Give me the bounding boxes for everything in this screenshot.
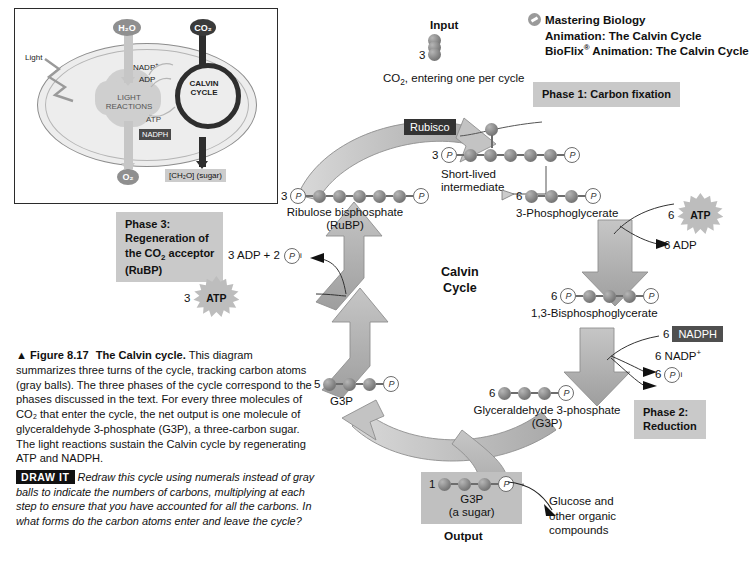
short-lived-intermediate-label: Short-livedintermediate [441,168,504,194]
rubisco-leader-line [458,118,548,142]
mastering-title: Mastering Biology [545,13,646,26]
carbon-ball [545,190,558,203]
molecule-rubp: 3 P P [281,188,429,204]
h2o-oval: H₂O [113,19,141,36]
phosphate-icon: P [560,288,576,304]
atp3-count: 3 [184,292,190,304]
g3p5-label: G3P [330,395,353,408]
calvin-cycle-center-label: Calvin Cycle [441,265,479,296]
carbon-ball [603,290,616,303]
molecule-g3p-6: 6 P [489,385,574,401]
light-zigzag-icon [43,57,113,103]
draw-it-tag: DRAW IT [16,470,75,484]
carbon-ball [458,478,471,491]
nadph-tag-inset: NADPH [139,129,171,140]
carbon-ball [438,478,451,491]
g3p6-count: 6 [489,387,495,399]
input-co2-balls: 3 [419,34,444,62]
phosphate-icon: P [383,376,399,392]
phase-3-box: Phase 3:Regeneration ofthe CO2 acceptor(… [116,212,223,282]
g3p1-label: G3P(a sugar) [429,493,514,519]
carbon-ball [525,190,538,203]
calvin-word: Calvin [441,265,479,279]
phosphate-icon: P [643,288,659,304]
rubp-count: 3 [281,190,287,202]
input-count: 3 [419,49,425,61]
sugar-arrowhead [196,161,208,169]
co2-entering-note: CO2, entering one per cycle [383,72,524,88]
light-label: Light [25,53,42,62]
atp3-arrow [230,252,350,310]
carbon-ball [498,387,511,400]
phosphate-icon: P [290,188,306,204]
rubisco-tag: Rubisco [404,119,456,135]
glucose-note: Glucose andother organiccompounds [549,494,616,538]
carbon-ball [343,378,356,391]
carbon-ball [353,190,366,203]
inset-small-arrows [127,53,187,123]
carbon-ball [583,290,596,303]
phosphate-icon: P [558,385,574,401]
carbon-ball [333,190,346,203]
carbon-ball [518,387,531,400]
molecule-g3p-5: 5 P [314,376,399,392]
o2-flow-arrow [124,121,133,169]
input-label: Input [430,18,458,31]
atp-star-icon: ATP [677,193,723,237]
nadph6-group: 6 NADPH [663,326,723,342]
bpg-count: 6 [551,290,557,302]
mastering-biology-block: Mastering Biology Animation: The Calvin … [528,12,749,59]
sugar-box-inset: [CH₂O] (sugar) [165,169,226,182]
carbon-ball [363,378,376,391]
atp-adp-arrows-1 [600,198,680,254]
g3p6-label: Glyceraldehyde 3-phosphate(G3P) [462,404,632,430]
molecule-bpg: 6 P P [551,288,659,304]
carbon-ball [373,190,386,203]
figure-body: This diagram summarizes three turns of t… [16,349,312,464]
phosphate-icon: P [413,188,429,204]
cycle-word: Cycle [443,281,477,295]
molecule-3pg: 6 P [516,188,601,204]
co2-flow-arrow [199,35,206,65]
figure-number: ▲ Figure 8.17 [16,349,89,361]
g3p5-count: 5 [314,378,320,390]
phosphate-icon: P [441,147,457,163]
rubp-label: Ribulose bisphosphate(RuBP) [270,206,420,232]
co2-oval: CO₂ [190,19,216,36]
nadph-arrows [595,330,665,390]
carbon-ball [538,387,551,400]
carbon-ball [313,190,326,203]
nadph-tag: NADPH [672,326,723,342]
mastering-line-2[interactable]: Animation: The Calvin Cycle [528,28,749,44]
output-label: Output [444,529,483,543]
overview-inset: CALVINCYCLE H₂O CO₂ O₂ Light LIGHTREACTI… [14,8,278,204]
carbon-ball [565,190,578,203]
carbon-ball [393,190,406,203]
bioflix-label: BioFlix [545,44,584,57]
mastering-line-3[interactable]: BioFlix® Animation: The Calvin Cycle [528,43,749,59]
carbon-ball [623,290,636,303]
carbon-ball [464,149,477,162]
mastering-line-1: Mastering Biology [528,12,749,28]
carbon-ball [478,478,491,491]
phosphate-icon: P [664,367,680,383]
bpg-label: 1,3-Bisphosphoglycerate [531,307,658,320]
pg3-count: 6 [516,190,522,202]
carbon-ball [323,378,336,391]
draw-it-block: DRAW ITRedraw this cycle using numerals … [16,470,316,528]
phosphate-icon: P [585,188,601,204]
co2-ball-3 [428,48,441,61]
media-circle-icon [528,13,541,26]
carbon-ball [484,149,497,162]
intermediate-count: 3 [432,149,438,161]
figure-caption: ▲ Figure 8.17 The Calvin cycle. This dia… [16,348,312,466]
o2-oval: O₂ [117,169,139,185]
bioflix-animation-label: Animation: The Calvin Cycle [589,44,748,57]
figure-title: The Calvin cycle. [96,349,186,361]
molecule-g3p-1: 1 P [429,476,514,492]
g3p1-count: 1 [429,478,435,490]
